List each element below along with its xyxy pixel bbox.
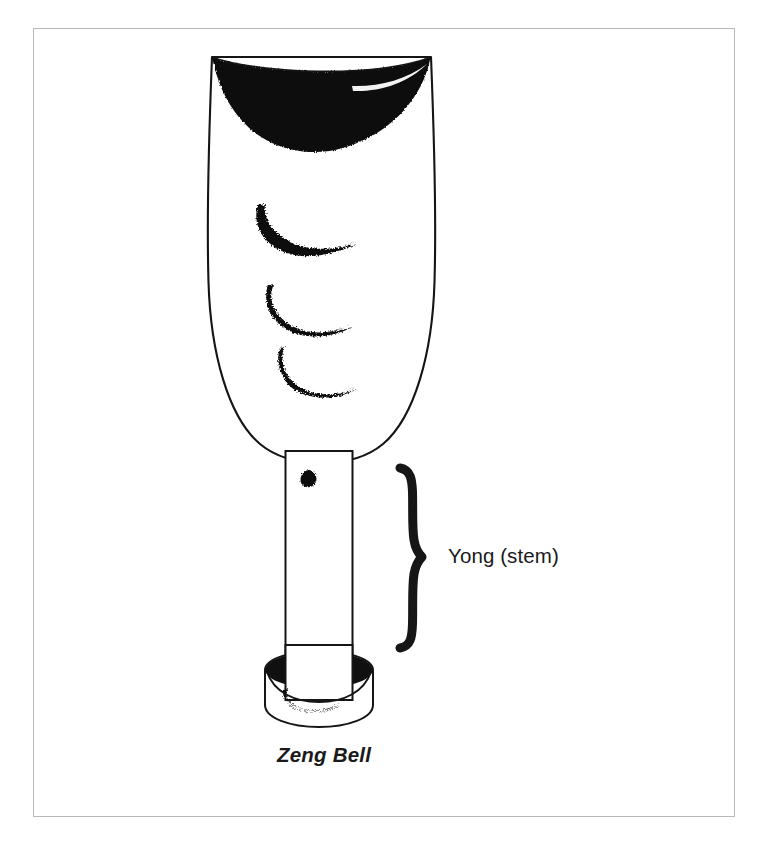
figure-border-frame bbox=[33, 28, 735, 817]
yong-stem-label: Yong (stem) bbox=[448, 546, 559, 567]
zeng-bell-caption: Zeng Bell bbox=[277, 745, 371, 766]
figure-root: Yong (stem) Zeng Bell bbox=[0, 0, 765, 843]
